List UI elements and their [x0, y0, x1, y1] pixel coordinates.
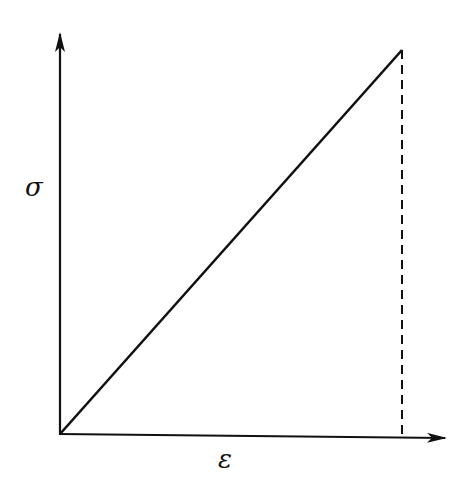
stress-strain-line: [60, 50, 402, 434]
x-axis-label: ε: [218, 444, 232, 474]
stress-strain-diagram: σ ε: [0, 0, 471, 483]
x-axis: [59, 434, 445, 438]
y-axis-label: σ: [25, 172, 44, 202]
